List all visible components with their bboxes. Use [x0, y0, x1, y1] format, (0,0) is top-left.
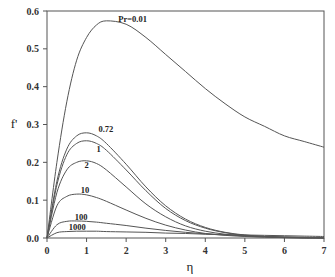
curve-labels: Pr=0.010.7212101001000 [69, 14, 147, 232]
plot-border [47, 11, 324, 238]
y-tick-label: 0.6 [27, 6, 40, 17]
y-tick-label: 0.2 [27, 157, 40, 168]
y-tick-label: 0.0 [27, 233, 40, 244]
y-tick-label: 0.3 [27, 119, 40, 130]
x-tick-label: 7 [322, 245, 327, 256]
curve-label: 0.72 [98, 124, 113, 134]
plot-frame [47, 11, 324, 238]
curve-label: Pr=0.01 [118, 14, 147, 24]
curve-label: 10 [81, 185, 90, 195]
y-tick-label: 0.1 [27, 195, 40, 206]
curve-label: 1000 [69, 222, 86, 232]
y-axis-title: f' [11, 116, 18, 131]
x-axis-ticks: 01234567 [45, 238, 327, 256]
x-axis-title: η [187, 259, 194, 274]
series-line-pr-0-01 [47, 21, 324, 238]
curve-label: 100 [75, 212, 88, 222]
series-line-2 [47, 161, 324, 238]
curve-label: 2 [85, 160, 89, 170]
y-tick-label: 0.5 [27, 43, 40, 54]
curves [47, 21, 324, 238]
x-tick-label: 5 [242, 245, 247, 256]
x-tick-label: 3 [163, 245, 168, 256]
line-chart: 01234567 0.00.10.20.30.40.50.6 Pr=0.010.… [0, 0, 335, 277]
x-tick-label: 1 [84, 245, 89, 256]
y-axis-ticks: 0.00.10.20.30.40.50.6 [27, 6, 48, 244]
y-tick-label: 0.4 [27, 81, 40, 92]
x-tick-label: 6 [282, 245, 287, 256]
x-tick-label: 2 [124, 245, 129, 256]
curve-label: 1 [96, 144, 100, 154]
x-tick-label: 0 [45, 245, 50, 256]
x-tick-label: 4 [203, 245, 208, 256]
